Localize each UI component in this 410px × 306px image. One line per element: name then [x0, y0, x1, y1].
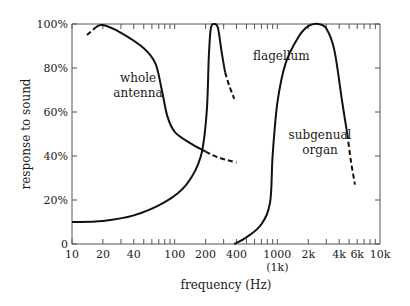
- x-tick-label: 10: [65, 248, 79, 261]
- y-tick-label: 80%: [44, 62, 68, 75]
- y-tick-label: 60%: [44, 106, 68, 119]
- subgenual-label-line1: subgenual: [289, 128, 352, 142]
- y-tick-label: 100%: [37, 18, 68, 31]
- x-tick-label: 1000: [263, 248, 291, 261]
- x-tick-label: 10k: [370, 248, 391, 261]
- x-tick-sublabel: (1k): [266, 261, 288, 274]
- whole-antenna-curve: [206, 152, 237, 163]
- x-axis-label: frequency (Hz): [181, 278, 272, 292]
- y-axis-label: response to sound: [19, 78, 33, 189]
- x-tick-label: 200: [195, 248, 216, 261]
- y-tick-label: 20%: [44, 194, 68, 207]
- whole-antenna-label-line1: whole: [120, 71, 156, 85]
- frequency-response-chart: 020%40%60%80%100%1020401002004001000(1k)…: [0, 0, 410, 306]
- flagellum-curve: [225, 72, 234, 98]
- x-tick-label: 20: [96, 248, 110, 261]
- x-tick-label: 4k: [332, 248, 346, 261]
- x-tick-label: 40: [127, 248, 141, 261]
- subgenual-label-line2: organ: [302, 143, 338, 157]
- x-tick-label: 2k: [301, 248, 315, 261]
- x-tick-label: 400: [226, 248, 247, 261]
- x-tick-label: 100: [164, 248, 185, 261]
- whole-antenna-curve: [87, 27, 96, 35]
- x-tick-label: 6k: [350, 248, 364, 261]
- flagellum-label: flagellum: [253, 49, 310, 63]
- whole-antenna-label-line2: antenna: [113, 86, 162, 100]
- y-tick-label: 40%: [44, 150, 68, 163]
